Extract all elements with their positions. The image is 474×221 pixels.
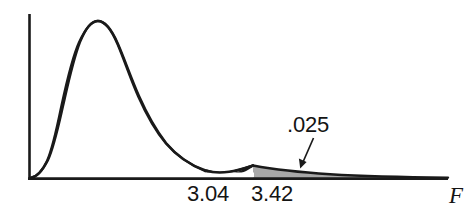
density-curve-tail: [31, 21, 449, 178]
distribution-plot: [0, 0, 474, 221]
x-tick-label-lower: 3.04: [187, 183, 229, 205]
annotation-arrow-shaft: [303, 138, 314, 162]
tail-area-annotation-label: .025: [287, 114, 329, 136]
x-axis-label: F: [449, 184, 463, 207]
annotation-arrowhead-icon: [299, 159, 307, 169]
x-tick-label-upper: 3.42: [251, 183, 293, 205]
f-distribution-figure: 3.04 3.42 .025 F: [0, 0, 474, 221]
